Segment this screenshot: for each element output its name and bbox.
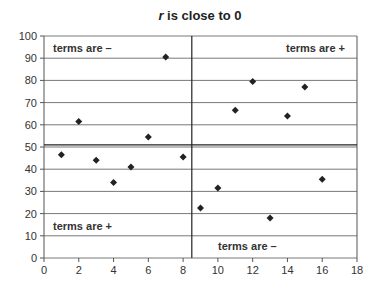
- x-tick-label: 8: [180, 264, 186, 276]
- data-point: [249, 78, 256, 85]
- data-point: [162, 54, 169, 61]
- x-tick-label: 6: [145, 264, 151, 276]
- quadrant-label: terms are +: [53, 220, 112, 232]
- y-tick-label: 60: [25, 119, 37, 131]
- data-point: [301, 84, 308, 91]
- y-tick-label: 0: [31, 252, 37, 264]
- scatter-chart: r is close to 0 010203040506070809010002…: [0, 0, 377, 288]
- y-tick-label: 40: [25, 163, 37, 175]
- x-tick-label: 18: [351, 264, 363, 276]
- y-tick-label: 90: [25, 52, 37, 64]
- data-point: [319, 176, 326, 183]
- data-point: [267, 215, 274, 222]
- y-tick-label: 10: [25, 230, 37, 242]
- data-point: [180, 153, 187, 160]
- x-tick-label: 10: [212, 264, 224, 276]
- quadrant-label: terms are –: [53, 42, 112, 54]
- x-tick-label: 16: [316, 264, 328, 276]
- y-tick-label: 70: [25, 97, 37, 109]
- y-tick-label: 30: [25, 185, 37, 197]
- quadrant-label: terms are –: [218, 240, 277, 252]
- data-point: [214, 185, 221, 192]
- x-tick-label: 2: [76, 264, 82, 276]
- x-tick-label: 4: [110, 264, 116, 276]
- data-point: [93, 157, 100, 164]
- x-tick-label: 14: [281, 264, 293, 276]
- data-point: [58, 151, 65, 158]
- data-point: [75, 118, 82, 125]
- data-point: [197, 205, 204, 212]
- data-point: [284, 112, 291, 119]
- chart-title: r is close to 0: [158, 8, 241, 23]
- data-point: [110, 179, 117, 186]
- x-tick-label: 12: [247, 264, 259, 276]
- y-tick-label: 80: [25, 74, 37, 86]
- axes: 0102030405060708090100024681012141618: [19, 30, 363, 276]
- data-point: [232, 107, 239, 114]
- quadrant-label: terms are +: [286, 42, 345, 54]
- y-tick-label: 100: [19, 30, 37, 42]
- y-tick-label: 50: [25, 141, 37, 153]
- y-tick-label: 20: [25, 208, 37, 220]
- x-tick-label: 0: [41, 264, 47, 276]
- data-point: [145, 134, 152, 141]
